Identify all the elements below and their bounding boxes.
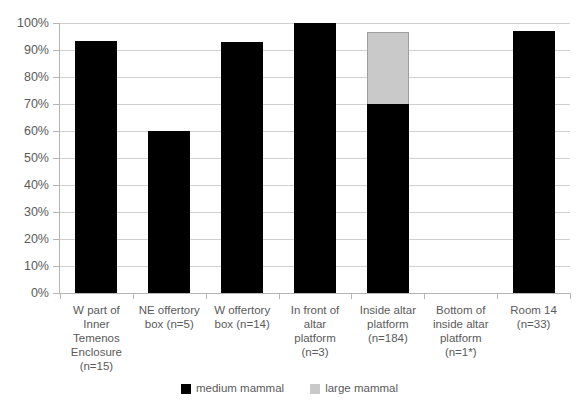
x-axis-category-label-line: inside altar [425,317,496,331]
x-axis-category-label: Bottom ofinside altarplatform(n=1*) [424,303,497,373]
y-axis-tick-label: 20% [0,233,49,246]
bar-slot [497,23,570,293]
y-tick-20 [53,239,59,240]
y-axis-tick-label: 50% [0,152,49,165]
x-axis-category-label: Inside altarplatform(n=184) [351,303,424,373]
legend-item[interactable]: medium mammal [181,383,284,395]
x-axis-category-label-line: In front of [280,303,351,317]
bar-segment-large-mammal[interactable] [367,32,409,104]
x-axis-category-label-line: Room 14 [498,303,569,317]
y-tick-70 [53,104,59,105]
x-axis-category-label-line: NE offertory [134,303,205,317]
gridline-0 [60,293,570,294]
bar-chart: 0%10%20%30%40%50%60%70%80%90%100% W part… [0,0,579,419]
y-tick-90 [53,50,59,51]
x-tick [133,293,134,299]
chart-legend: medium mammallarge mammal [0,383,579,395]
y-tick-80 [53,77,59,78]
x-axis-category-label-line: (n=1*) [425,345,496,359]
y-tick-10 [53,266,59,267]
x-axis-category-label: NE offertorybox (n=5) [133,303,206,373]
y-tick-50 [53,158,59,159]
x-axis-category-label-line: Inner [61,317,132,331]
y-axis-tick-label: 40% [0,179,49,192]
bar-stack[interactable] [513,31,555,293]
bar-segment-medium-mammal[interactable] [513,31,555,293]
x-axis-category-label-line: (n=15) [61,359,132,373]
x-axis-category-label-line: W part of [61,303,132,317]
y-axis-tick-label: 80% [0,71,49,84]
legend-label: medium mammal [196,383,284,395]
x-axis-category-label-line: platform [280,331,351,345]
x-axis-category-label: Room 14(n=33) [497,303,570,373]
x-tick [424,293,425,299]
y-tick-60 [53,131,59,132]
y-axis-tick-label: 10% [0,260,49,273]
x-axis-category-label-line: Bottom of [425,303,496,317]
bar-stack[interactable] [367,32,409,293]
bar-stack[interactable] [75,41,117,293]
x-axis-category-label-line: (n=184) [352,331,423,345]
y-tick-30 [53,212,59,213]
bar-segment-medium-mammal[interactable] [294,23,336,293]
x-axis-category-label-line: Inside altar [352,303,423,317]
bar-segment-medium-mammal[interactable] [75,41,117,293]
x-axis-category-label-line: (n=33) [498,317,569,331]
x-axis-category-label-line: altar [280,317,351,331]
bar-stack[interactable] [221,42,263,293]
x-axis-category-label-line: box (n=5) [134,317,205,331]
x-tick [497,293,498,299]
x-axis-category-label-line: box (n=14) [207,317,278,331]
x-axis-category-label-line: platform [425,331,496,345]
bar-slot [279,23,352,293]
y-axis-tick-label: 90% [0,44,49,57]
bar-stack[interactable] [148,131,190,293]
y-axis-tick-label: 70% [0,98,49,111]
x-axis-labels: W part ofInnerTemenosEnclosure(n=15)NE o… [60,303,570,373]
bar-slot [424,23,497,293]
x-axis-category-label-line: W offertory [207,303,278,317]
y-axis-tick-label: 30% [0,206,49,219]
x-axis-category-label: W part ofInnerTemenosEnclosure(n=15) [60,303,133,373]
x-tick [279,293,280,299]
legend-swatch-large-mammal-icon [310,384,320,394]
x-tick [351,293,352,299]
x-tick [60,293,61,299]
x-axis-category-label: W offertorybox (n=14) [206,303,279,373]
bar-segment-medium-mammal[interactable] [148,131,190,293]
x-axis-category-label-line: Temenos [61,331,132,345]
x-axis-category-label-line: (n=3) [280,345,351,359]
x-tick [206,293,207,299]
y-axis-tick-label: 0% [0,287,49,300]
bar-slot [133,23,206,293]
bar-slot [60,23,133,293]
y-axis-tick-label: 100% [0,17,49,30]
x-axis-category-label-line: Enclosure [61,345,132,359]
x-axis-category-label: In front ofaltarplatform(n=3) [279,303,352,373]
legend-item[interactable]: large mammal [310,383,398,395]
y-tick-0 [53,293,59,294]
bar-slot [351,23,424,293]
x-axis-category-label-line: platform [352,317,423,331]
plot-area [60,23,570,293]
bar-slot [206,23,279,293]
bar-stack[interactable] [294,23,336,293]
legend-label: large mammal [325,383,398,395]
y-axis-tick-label: 60% [0,125,49,138]
bar-segment-medium-mammal[interactable] [367,104,409,293]
y-tick-100 [53,23,59,24]
y-tick-40 [53,185,59,186]
x-tick [570,293,571,299]
bar-segment-medium-mammal[interactable] [221,42,263,293]
legend-swatch-medium-mammal-icon [181,384,191,394]
